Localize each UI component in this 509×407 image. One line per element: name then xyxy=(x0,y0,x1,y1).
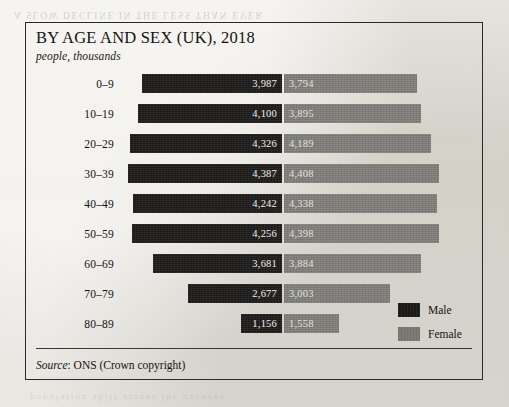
row-bars: 3,9873,794 xyxy=(122,69,478,99)
source-divider xyxy=(36,348,472,349)
row-bars: 4,3874,408 xyxy=(122,159,478,189)
age-group-label: 0–9 xyxy=(26,78,114,90)
bar-value-male: 2,677 xyxy=(252,288,277,299)
bar-male: 1,156 xyxy=(241,314,282,333)
age-group-label: 70–79 xyxy=(26,288,114,300)
row-bars: 4,2424,338 xyxy=(122,189,478,219)
bar-male: 4,256 xyxy=(132,224,282,243)
legend-item-female: Female xyxy=(398,327,462,341)
source-label: Source xyxy=(36,359,68,371)
bar-male: 3,681 xyxy=(153,254,282,273)
pyramid-row: 60–693,6813,884 xyxy=(26,249,482,279)
bar-female: 3,895 xyxy=(284,104,421,123)
bar-value-male: 4,326 xyxy=(252,138,277,149)
pyramid-row: 40–494,2424,338 xyxy=(26,189,482,219)
bar-value-female: 4,189 xyxy=(289,138,314,149)
bar-value-male: 4,387 xyxy=(252,168,277,179)
bar-value-female: 4,338 xyxy=(289,198,314,209)
age-group-label: 80–89 xyxy=(26,318,114,330)
bar-value-male: 4,100 xyxy=(252,108,277,119)
bar-male: 4,387 xyxy=(128,164,282,183)
bar-male: 3,987 xyxy=(142,74,282,93)
row-bars: 4,1003,895 xyxy=(122,99,478,129)
bar-value-male: 4,242 xyxy=(252,198,277,209)
legend-item-male: Male xyxy=(398,303,462,317)
bar-female: 3,794 xyxy=(284,74,417,93)
bar-female: 4,189 xyxy=(284,134,431,153)
row-bars: 3,6813,884 xyxy=(122,249,478,279)
pyramid-row: 10–194,1003,895 xyxy=(26,99,482,129)
source-text: : ONS (Crown copyright) xyxy=(68,359,186,371)
bar-male: 4,242 xyxy=(133,194,282,213)
bar-value-male: 4,256 xyxy=(252,228,277,239)
bar-value-female: 3,003 xyxy=(289,288,314,299)
bar-value-male: 3,681 xyxy=(252,258,277,269)
bar-female: 4,338 xyxy=(284,194,437,213)
bar-value-female: 3,884 xyxy=(289,258,314,269)
source-note: Source: ONS (Crown copyright) xyxy=(36,359,185,371)
bar-value-female: 3,895 xyxy=(289,108,314,119)
bar-value-male: 1,156 xyxy=(252,318,277,329)
bar-value-female: 1,558 xyxy=(289,318,314,329)
population-pyramid-plot: 0–93,9873,79410–194,1003,89520–294,3264,… xyxy=(26,69,482,339)
bar-male: 2,677 xyxy=(188,284,282,303)
age-group-label: 40–49 xyxy=(26,198,114,210)
bar-female: 4,408 xyxy=(284,164,439,183)
legend-label-male: Male xyxy=(428,304,452,316)
chart-title: BY AGE AND SEX (UK), 2018 xyxy=(36,28,255,48)
row-bars: 4,2564,398 xyxy=(122,219,478,249)
age-group-label: 60–69 xyxy=(26,258,114,270)
bar-male: 4,326 xyxy=(130,134,282,153)
age-group-label: 30–39 xyxy=(26,168,114,180)
female-color-swatch xyxy=(398,327,420,341)
bar-value-female: 4,398 xyxy=(289,228,314,239)
bar-value-female: 3,794 xyxy=(289,78,314,89)
bar-female: 1,558 xyxy=(284,314,339,333)
bar-female: 4,398 xyxy=(284,224,439,243)
pyramid-row: 0–93,9873,794 xyxy=(26,69,482,99)
chart-subtitle: people, thousands xyxy=(36,50,121,62)
bar-value-female: 4,408 xyxy=(289,168,314,179)
bleed-through-text-top: A SLOW DECLINE IN THE LESS THAN EVER xyxy=(14,2,499,20)
row-bars: 4,3264,189 xyxy=(122,129,478,159)
age-group-label: 20–29 xyxy=(26,138,114,150)
legend-label-female: Female xyxy=(428,328,462,340)
pyramid-row: 50–594,2564,398 xyxy=(26,219,482,249)
pyramid-row: 30–394,3874,408 xyxy=(26,159,482,189)
chart-frame: BY AGE AND SEX (UK), 2018 people, thousa… xyxy=(25,22,483,380)
chart-legend: Male Female xyxy=(398,303,462,351)
bar-female: 3,884 xyxy=(284,254,421,273)
male-color-swatch xyxy=(398,303,420,317)
pyramid-row: 20–294,3264,189 xyxy=(26,129,482,159)
bleed-through-text-bottom: population shift across the decades xyxy=(30,387,489,403)
bar-female: 3,003 xyxy=(284,284,390,303)
age-group-label: 50–59 xyxy=(26,228,114,240)
bar-male: 4,100 xyxy=(138,104,282,123)
age-group-label: 10–19 xyxy=(26,108,114,120)
bar-value-male: 3,987 xyxy=(252,78,277,89)
